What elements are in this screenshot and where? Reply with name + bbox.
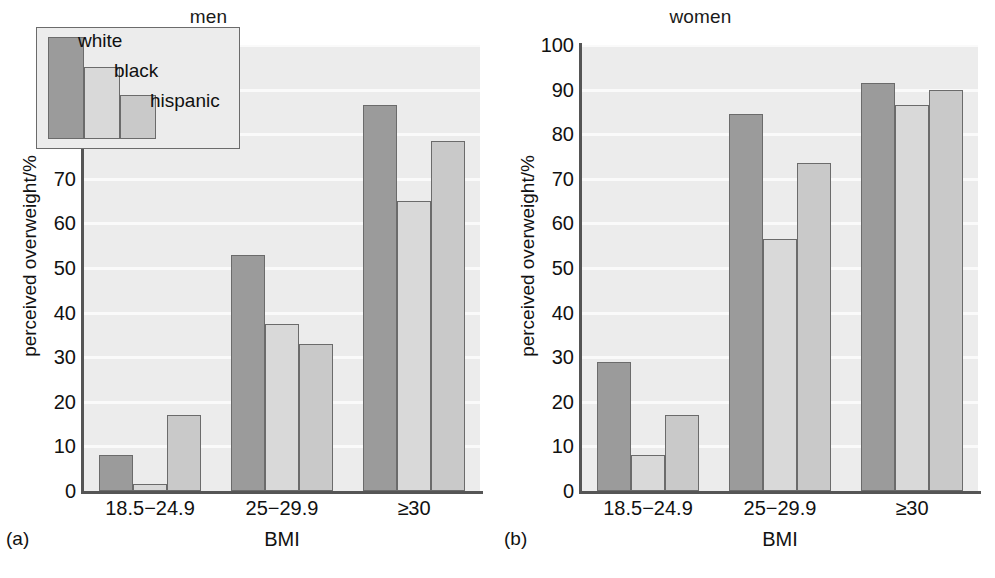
legend: white black hispanic bbox=[36, 27, 240, 149]
gridline bbox=[582, 45, 978, 47]
bar-hispanic-0 bbox=[167, 415, 201, 491]
y-tick-label: 0 bbox=[14, 481, 76, 501]
x-tick-label: ≥30 bbox=[334, 497, 494, 520]
panel-women: women 0102030405060708090100 18.5−24.925… bbox=[498, 0, 995, 578]
panel-caption-women: (b) bbox=[504, 528, 527, 550]
bar-hispanic-1 bbox=[797, 163, 831, 491]
legend-label-hispanic: hispanic bbox=[150, 90, 220, 112]
bar-hispanic-2 bbox=[431, 141, 465, 491]
bar-white-2 bbox=[363, 105, 397, 491]
y-tick-label: 100 bbox=[512, 35, 574, 55]
bar-black-2 bbox=[397, 201, 431, 491]
bar-black-0 bbox=[133, 484, 167, 491]
y-tick-label: 10 bbox=[14, 436, 76, 456]
y-tick-label: 0 bbox=[512, 481, 574, 501]
bar-black-0 bbox=[631, 455, 665, 491]
bar-white-0 bbox=[99, 455, 133, 491]
y-axis-line-women bbox=[579, 43, 582, 493]
x-axis-title-men: BMI bbox=[84, 528, 480, 551]
bar-black-1 bbox=[763, 239, 797, 491]
panel-men: men 0102030405060708090100 18.5−24.925−2… bbox=[0, 0, 497, 578]
x-axis-line-men bbox=[81, 491, 483, 494]
figure: men 0102030405060708090100 18.5−24.925−2… bbox=[0, 0, 995, 578]
panel-title-women: women bbox=[452, 6, 949, 28]
bar-white-0 bbox=[597, 362, 631, 491]
x-axis-title-women: BMI bbox=[582, 528, 978, 551]
y-axis-title-women: perceived overweight/% bbox=[517, 76, 539, 436]
plot-area-women bbox=[582, 45, 978, 491]
legend-swatch-white bbox=[48, 37, 84, 139]
x-axis-line-women bbox=[579, 491, 981, 494]
gridline bbox=[582, 89, 978, 92]
bar-hispanic-1 bbox=[299, 344, 333, 491]
bar-black-2 bbox=[895, 105, 929, 491]
legend-swatches bbox=[48, 37, 230, 139]
bar-hispanic-2 bbox=[929, 90, 963, 491]
gridline bbox=[84, 178, 480, 181]
bar-hispanic-0 bbox=[665, 415, 699, 491]
bar-white-1 bbox=[729, 114, 763, 491]
panel-caption-men: (a) bbox=[6, 528, 29, 550]
y-tick-label: 10 bbox=[512, 436, 574, 456]
panel-title-men: men bbox=[0, 6, 457, 28]
legend-label-black: black bbox=[114, 60, 158, 82]
bar-black-1 bbox=[265, 324, 299, 491]
legend-label-white: white bbox=[78, 30, 122, 52]
bar-white-1 bbox=[231, 255, 265, 491]
x-tick-label: ≥30 bbox=[832, 497, 992, 520]
bar-white-2 bbox=[861, 83, 895, 491]
